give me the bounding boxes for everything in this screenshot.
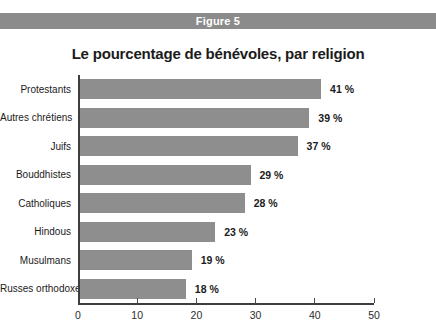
x-axis-tick bbox=[137, 298, 138, 303]
bar bbox=[80, 108, 309, 128]
x-axis-tick bbox=[196, 298, 197, 303]
plot-cell: 18 % bbox=[78, 275, 374, 304]
category-label: Autres chrétiens bbox=[0, 112, 78, 123]
x-axis-tick bbox=[255, 298, 256, 303]
bars-area: Protestants41 %Autres chrétiens39 %Juifs… bbox=[0, 75, 436, 303]
chart-title: Le pourcentage de bénévoles, par religio… bbox=[0, 45, 436, 62]
category-label: Russes orthodoxes bbox=[0, 283, 78, 294]
value-label: 23 % bbox=[224, 226, 248, 238]
figure-container: Figure 5 Le pourcentage de bénévoles, pa… bbox=[0, 13, 436, 329]
bar-row: Hindous23 % bbox=[0, 218, 436, 247]
x-axis-tick-label: 0 bbox=[75, 309, 81, 321]
bar bbox=[80, 79, 321, 99]
plot-cell: 37 % bbox=[78, 132, 374, 161]
bar bbox=[80, 136, 298, 156]
x-axis-tick bbox=[374, 298, 375, 303]
category-label: Juifs bbox=[0, 141, 78, 152]
plot-cell: 29 % bbox=[78, 161, 374, 190]
value-label: 37 % bbox=[307, 140, 331, 152]
x-axis-tick-label: 20 bbox=[191, 309, 203, 321]
plot-cell: 28 % bbox=[78, 189, 374, 218]
value-label: 41 % bbox=[330, 83, 354, 95]
figure-header-bar: Figure 5 bbox=[0, 13, 436, 29]
plot-cell: 19 % bbox=[78, 246, 374, 275]
bar-chart: Protestants41 %Autres chrétiens39 %Juifs… bbox=[0, 75, 436, 329]
category-label: Bouddhistes bbox=[0, 169, 78, 180]
value-label: 28 % bbox=[254, 197, 278, 209]
bar bbox=[80, 250, 192, 270]
x-axis-tick bbox=[314, 298, 315, 303]
bar-row: Bouddhistes29 % bbox=[0, 161, 436, 190]
x-axis-tick-label: 10 bbox=[131, 309, 143, 321]
bar bbox=[80, 193, 245, 213]
bar-row: Protestants41 % bbox=[0, 75, 436, 104]
bar-row: Musulmans19 % bbox=[0, 246, 436, 275]
value-label: 39 % bbox=[318, 112, 342, 124]
bar bbox=[80, 279, 186, 299]
category-label: Catholiques bbox=[0, 198, 78, 209]
figure-label: Figure 5 bbox=[196, 15, 240, 27]
bar bbox=[80, 222, 215, 242]
plot-cell: 39 % bbox=[78, 104, 374, 133]
x-axis-tick-label: 50 bbox=[368, 309, 380, 321]
bar-row: Russes orthodoxes18 % bbox=[0, 275, 436, 304]
value-label: 19 % bbox=[201, 254, 225, 266]
x-axis-tick-label: 30 bbox=[250, 309, 262, 321]
category-label: Protestants bbox=[0, 84, 78, 95]
bar-row: Catholiques28 % bbox=[0, 189, 436, 218]
bar-row: Autres chrétiens39 % bbox=[0, 104, 436, 133]
bar-row: Juifs37 % bbox=[0, 132, 436, 161]
plot-cell: 41 % bbox=[78, 75, 374, 104]
plot-cell: 23 % bbox=[78, 218, 374, 247]
x-axis: 01020304050 bbox=[78, 303, 374, 329]
category-label: Musulmans bbox=[0, 255, 78, 266]
bar bbox=[80, 165, 251, 185]
value-label: 29 % bbox=[260, 169, 284, 181]
category-label: Hindous bbox=[0, 226, 78, 237]
x-axis-tick-label: 40 bbox=[309, 309, 321, 321]
value-label: 18 % bbox=[195, 283, 219, 295]
